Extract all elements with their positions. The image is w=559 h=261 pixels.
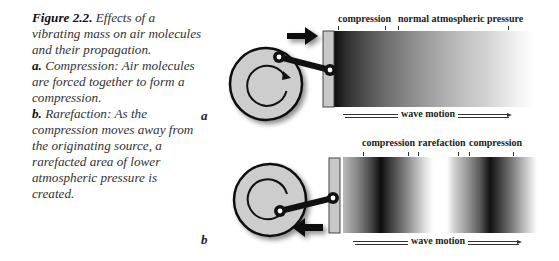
wave-arrowhead-a — [507, 113, 512, 117]
mechanism-drawings — [0, 0, 559, 261]
rotating-disk-b — [234, 164, 306, 236]
arrow-right-icon — [287, 27, 318, 45]
vibrating-mass-a — [230, 27, 336, 120]
wave-arrowhead-b — [517, 240, 522, 244]
vibrating-mass-b — [234, 158, 340, 237]
